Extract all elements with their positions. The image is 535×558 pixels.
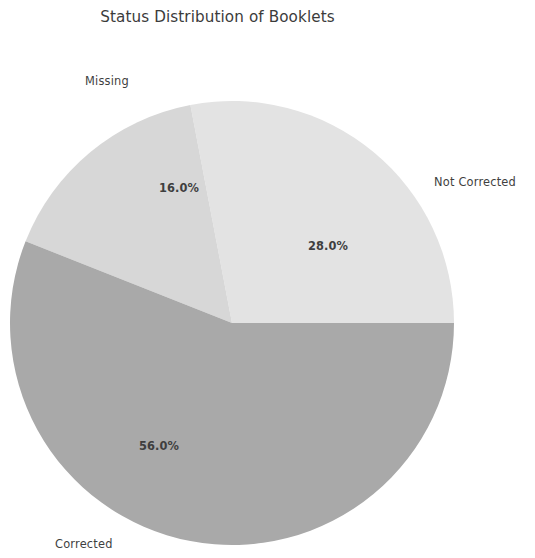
pie-label-not-corrected: Not Corrected [434,175,516,189]
pie-wedges [10,101,454,545]
pie-percent-not-corrected: 28.0% [308,239,348,253]
pie-chart-canvas [0,0,535,558]
pie-label-corrected: Corrected [55,537,113,551]
pie-label-missing: Missing [85,74,129,88]
pie-chart-figure: Status Distribution of Booklets Missing … [0,0,535,558]
pie-percent-corrected: 56.0% [139,439,179,453]
pie-percent-missing: 16.0% [159,181,199,195]
pie-slice-not-corrected[interactable] [190,101,454,323]
